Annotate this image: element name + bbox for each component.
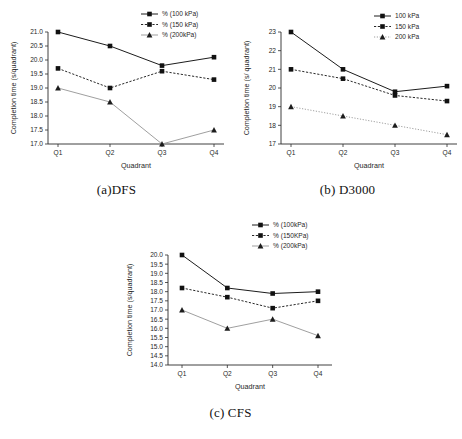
data-point-marker [212, 77, 217, 82]
x-tick-label: Q4 [314, 370, 323, 378]
legend-marker [147, 12, 152, 17]
legend-label-2: 150 kPa [395, 23, 420, 30]
legend-label-1: % (100 kPa) [162, 10, 198, 18]
y-tick-label: 18.0 [30, 112, 43, 119]
data-point-marker [315, 333, 321, 338]
data-point-marker [270, 306, 275, 311]
y-tick-label: 21 [269, 66, 277, 73]
legend-label-3: % (200kPa) [162, 31, 196, 39]
data-point-marker [341, 76, 346, 81]
panel-b-d3000: 17181920212223Q1Q2Q3Q4QuadrantCompletion… [233, 4, 462, 204]
data-point-marker [289, 67, 294, 72]
legend-marker [258, 233, 263, 238]
x-tick-label: Q2 [223, 370, 232, 378]
legend-label-1: 100 kPa [395, 12, 420, 19]
chart-c-plot-area: 14.014.515.015.516.016.517.017.518.018.5… [116, 213, 345, 403]
x-tick-label: Q3 [391, 149, 400, 157]
data-point-marker [288, 104, 294, 109]
y-tick-label: 19.0 [150, 270, 163, 277]
x-tick-label: Q1 [287, 149, 296, 157]
chart-c-svg: 14.014.515.015.516.016.517.017.518.018.5… [116, 213, 345, 403]
data-point-marker [445, 99, 450, 104]
series-line-1 [182, 255, 318, 294]
y-tick-label: 19.5 [30, 70, 43, 77]
y-axis-title: Completion time (s/quadrant) [9, 42, 18, 135]
x-axis-title: Quadrant [121, 161, 151, 170]
series-line-3 [182, 310, 318, 336]
data-point-marker [160, 69, 165, 74]
data-point-marker [316, 299, 321, 304]
chart-b-plot-area: 17181920212223Q1Q2Q3Q4QuadrantCompletion… [233, 4, 462, 179]
y-tick-label: 18.5 [30, 98, 43, 105]
data-point-marker [108, 86, 113, 91]
x-axis-title: Quadrant [354, 161, 384, 170]
series-line-2 [58, 68, 214, 88]
data-point-marker [393, 93, 398, 98]
caption-a: (a)DFS [2, 182, 231, 198]
x-tick-label: Q3 [158, 149, 167, 157]
legend-label-2: % (150 kPa) [162, 21, 198, 29]
data-point-marker [56, 66, 61, 71]
y-tick-label: 20.0 [150, 251, 163, 258]
panel-c-cfs: 14.014.515.015.516.016.517.017.518.018.5… [116, 213, 345, 428]
chart-legend: % (100kPa)% (150KPa)% (200kPa) [252, 221, 309, 250]
legend-label-1: % (100kPa) [273, 221, 307, 229]
y-tick-label: 17.0 [150, 306, 163, 313]
y-tick-label: 20.5 [30, 42, 43, 49]
y-tick-label: 19 [269, 103, 277, 110]
data-point-marker [444, 132, 450, 137]
x-tick-label: Q4 [210, 149, 219, 157]
y-tick-label: 20 [269, 84, 277, 91]
data-point-marker [211, 127, 217, 132]
y-tick-label: 21.0 [30, 28, 43, 35]
x-tick-label: Q1 [54, 149, 63, 157]
legend-label-3: % (200kPa) [273, 242, 307, 250]
data-point-marker [225, 295, 230, 300]
data-point-marker [212, 55, 217, 60]
legend-label-3: 200 kPa [395, 33, 420, 40]
data-point-marker [270, 291, 275, 296]
data-point-marker [225, 286, 230, 291]
y-tick-label: 18 [269, 122, 277, 129]
data-point-marker [160, 63, 165, 68]
x-tick-label: Q2 [339, 149, 348, 157]
y-axis-title: Completion time (s/ quadrant) [242, 41, 251, 136]
chart-legend: % (100 kPa)% (150 kPa)% (200kPa) [141, 10, 198, 39]
x-tick-label: Q3 [268, 370, 277, 378]
y-tick-label: 14.0 [150, 361, 163, 368]
figure-multi-panel-line-charts: 17.017.518.018.519.019.520.020.521.0Q1Q2… [0, 0, 462, 439]
data-point-marker [316, 289, 321, 294]
y-tick-label: 17.5 [30, 126, 43, 133]
legend-marker [258, 223, 263, 228]
x-axis-title: Quadrant [235, 382, 265, 391]
x-tick-label: Q2 [106, 149, 115, 157]
series-line-2 [291, 69, 447, 101]
chart-b-svg: 17181920212223Q1Q2Q3Q4QuadrantCompletion… [233, 4, 462, 179]
y-tick-label: 20.0 [30, 56, 43, 63]
y-tick-label: 19.5 [150, 261, 163, 268]
data-point-marker [179, 307, 185, 312]
data-point-marker [270, 316, 276, 321]
series-line-1 [291, 32, 447, 92]
x-tick-label: Q4 [443, 149, 452, 157]
y-tick-label: 15.5 [150, 334, 163, 341]
chart-a-plot-area: 17.017.518.018.519.019.520.020.521.0Q1Q2… [2, 4, 231, 179]
y-tick-label: 17 [269, 140, 277, 147]
y-tick-label: 17.0 [30, 140, 43, 147]
chart-a-svg: 17.017.518.018.519.019.520.020.521.0Q1Q2… [2, 4, 231, 179]
y-tick-label: 18.5 [150, 279, 163, 286]
data-point-marker [56, 30, 61, 35]
y-tick-label: 18.0 [150, 288, 163, 295]
data-point-marker [180, 286, 185, 291]
x-tick-label: Q1 [178, 370, 187, 378]
legend-label-2: % (150KPa) [273, 232, 309, 240]
data-point-marker [55, 85, 61, 90]
series-line-3 [58, 88, 214, 144]
legend-marker [380, 24, 385, 29]
y-tick-label: 15.0 [150, 343, 163, 350]
data-point-marker [289, 30, 294, 35]
y-tick-label: 19.0 [30, 84, 43, 91]
y-tick-label: 22 [269, 47, 277, 54]
panel-a-dfs: 17.017.518.018.519.019.520.020.521.0Q1Q2… [2, 4, 231, 204]
data-point-marker [108, 44, 113, 49]
